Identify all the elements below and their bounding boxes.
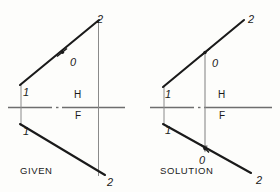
given-horizontal-plane-label: H	[74, 90, 81, 100]
solution-point-0-top-marker	[203, 51, 206, 54]
given-point-0-marker	[61, 51, 64, 54]
solution-front-point-2-label: 2	[256, 175, 262, 186]
given-front-point-1-label: 1	[23, 126, 29, 137]
given-top-view-line-1-2	[20, 20, 99, 85]
solution-point-0-front-marker	[203, 147, 206, 150]
given-top-point-2-label: 2	[97, 14, 103, 25]
solution-top-point-2-label: 2	[248, 14, 254, 25]
solution-frontal-plane-label: F	[219, 111, 225, 121]
solution-front-point-1-label: 1	[165, 125, 171, 136]
diagram-page: 2 0 1 1 2 H F GIVEN 2 0 1 1 0 2 H F SOLU…	[0, 0, 280, 192]
given-top-point-0-label: 0	[70, 57, 76, 68]
projection-drawing-canvas	[0, 0, 280, 192]
solution-horizontal-plane-label: H	[218, 90, 225, 100]
solution-panel-title: SOLUTION	[160, 166, 213, 176]
given-top-point-1-label: 1	[23, 87, 29, 98]
given-frontal-plane-label: F	[75, 111, 81, 121]
solution-top-point-0-label: 0	[212, 58, 218, 69]
given-front-point-2-label: 2	[107, 177, 113, 188]
solution-top-point-1-label: 1	[165, 89, 171, 100]
given-panel-title: GIVEN	[20, 166, 53, 176]
